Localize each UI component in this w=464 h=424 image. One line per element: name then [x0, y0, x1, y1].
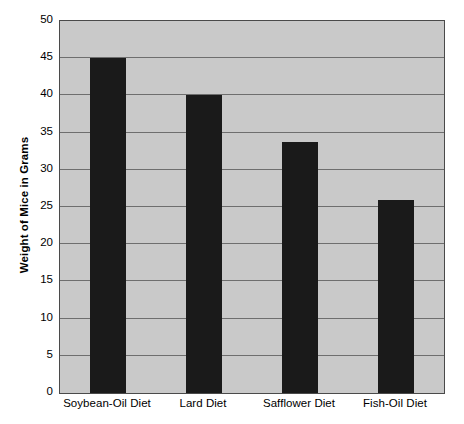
- y-tick-label: 0: [5, 386, 53, 397]
- y-tick-label: 30: [5, 163, 53, 174]
- x-axis-category-labels: Soybean-Oil DietLard DietSafflower DietF…: [59, 396, 443, 414]
- y-tick-label: 35: [5, 126, 53, 137]
- bars: [60, 21, 444, 393]
- y-tick-label: 25: [5, 200, 53, 211]
- bar: [90, 58, 126, 393]
- y-tick-label: 15: [5, 274, 53, 285]
- x-axis-label: Lard Diet: [155, 396, 251, 414]
- x-axis-label: Soybean-Oil Diet: [59, 396, 155, 414]
- x-axis-label: Fish-Oil Diet: [347, 396, 443, 414]
- bar: [378, 200, 414, 393]
- bar-chart: Weight of Mice in Grams 5045403530252015…: [0, 0, 464, 424]
- y-tick-label: 10: [5, 312, 53, 323]
- y-tick-label: 5: [5, 349, 53, 360]
- y-tick-label: 50: [5, 14, 53, 25]
- bar: [282, 142, 318, 393]
- bar: [186, 95, 222, 393]
- y-tick-label: 40: [5, 88, 53, 99]
- y-tick-label: 45: [5, 51, 53, 62]
- plot-area: [59, 20, 445, 394]
- y-tick-label: 20: [5, 237, 53, 248]
- x-axis-label: Safflower Diet: [251, 396, 347, 414]
- y-axis-tick-labels: 50454035302520151050: [0, 0, 53, 424]
